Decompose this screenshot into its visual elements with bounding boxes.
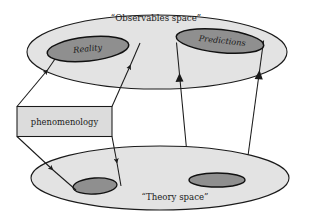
predictions-base-region [189, 173, 245, 187]
connector-phenomenology-to-theory-left [17, 137, 53, 171]
diagram-canvas: Reality Predictions “Observables space” … [0, 0, 311, 218]
phenomenology-label: phenomenology [31, 117, 99, 127]
figure-container: Reality Predictions “Observables space” … [0, 0, 311, 218]
phenomenology-box: phenomenology [17, 107, 112, 137]
predictions-base-ellipse [189, 173, 245, 187]
connector-phenomenology-to-reality-left [17, 70, 48, 107]
observables-space-label: “Observables space” [111, 13, 201, 23]
theory-space-label: “Theory space” [142, 192, 209, 202]
